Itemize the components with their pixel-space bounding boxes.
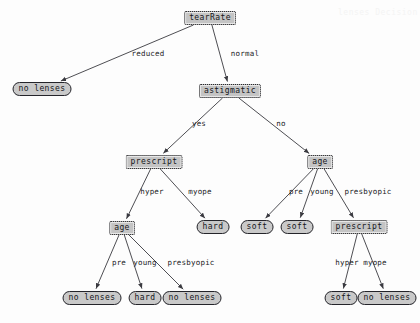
edge-label-no: no [276, 120, 285, 128]
edge-label-presbyopic: presbyopic [344, 188, 391, 196]
edge-group [61, 25, 383, 289]
tree-node-soft-pre[interactable]: soft [241, 220, 274, 234]
edge-layer [0, 0, 420, 323]
tree-node-no-lenses-myope[interactable]: no lenses [358, 291, 417, 305]
edge-label-myope: myope [363, 259, 387, 267]
tree-node-age-right[interactable]: age [307, 155, 333, 169]
edge-label-myope: myope [188, 188, 212, 196]
tree-node-root[interactable]: tearRate [184, 11, 236, 25]
tree-node-no-lenses-reduced[interactable]: no lenses [13, 82, 72, 96]
tree-edge-root-to-astigmatic [212, 25, 228, 82]
tree-node-soft-hyper[interactable]: soft [325, 291, 358, 305]
edge-label-pre: pre [112, 259, 126, 267]
decision-tree-canvas: tearRateno lensesastigmaticprescriptageh… [0, 0, 420, 323]
background-watermark-text: lenses Decision [338, 8, 418, 17]
tree-node-hard-young[interactable]: hard [129, 291, 162, 305]
edge-label-yes: yes [192, 120, 206, 128]
tree-node-no-lenses-pre[interactable]: no lenses [63, 291, 122, 305]
tree-node-prescript-right[interactable]: prescript [331, 220, 388, 234]
tree-node-astigmatic[interactable]: astigmatic [199, 84, 261, 98]
edge-label-hyper: hyper [335, 259, 359, 267]
edge-label-normal: normal [231, 50, 259, 58]
tree-node-age-left[interactable]: age [109, 221, 135, 235]
edge-label-young: young [310, 188, 334, 196]
tree-node-no-lenses-presby[interactable]: no lenses [163, 291, 222, 305]
edge-label-reduced: reduced [131, 50, 164, 58]
tree-node-hard-myope[interactable]: hard [197, 220, 230, 234]
tree-node-soft-young[interactable]: soft [281, 220, 314, 234]
edge-label-presbyopic: presbyopic [167, 259, 214, 267]
tree-edge-root-to-no-lenses-reduced [61, 25, 194, 81]
tree-node-prescript-left[interactable]: prescript [126, 155, 183, 169]
tree-edge-astigmatic-to-age-right [239, 98, 309, 153]
edge-label-young: young [133, 259, 157, 267]
edge-label-hyper: hyper [140, 188, 164, 196]
edge-label-pre: pre [289, 188, 303, 196]
